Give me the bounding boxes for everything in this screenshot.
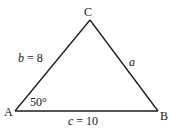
side-b-value: 8: [37, 51, 43, 65]
triangle-diagram: C A B b = 8 a 50° c = 10: [0, 0, 170, 128]
vertex-label-a: A: [4, 106, 13, 118]
angle-a-label: 50°: [30, 96, 47, 108]
side-c-eq: =: [76, 114, 83, 128]
side-b-eq: =: [27, 51, 34, 65]
side-a-line: [90, 20, 158, 111]
side-b-var: b: [18, 51, 24, 65]
side-b-label: b = 8: [18, 52, 43, 64]
side-c-var: c: [68, 114, 73, 128]
side-b-line: [15, 20, 90, 111]
vertex-label-b: B: [160, 110, 168, 122]
side-c-value: 10: [86, 114, 98, 128]
side-a-label: a: [129, 56, 135, 68]
vertex-label-c: C: [84, 6, 92, 18]
side-c-label: c = 10: [68, 115, 98, 127]
